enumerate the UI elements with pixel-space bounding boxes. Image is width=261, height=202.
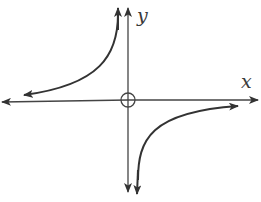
y-axis-label: y xyxy=(137,6,148,25)
curve-branch-quadrant-4 xyxy=(138,106,238,180)
x-axis-negative xyxy=(2,100,128,102)
curve-branch-quadrant-2 xyxy=(24,14,118,95)
curve-branch-quadrant-4-bottom xyxy=(137,170,138,194)
hyperbola-graph xyxy=(0,0,261,202)
x-axis-label: x xyxy=(241,72,252,91)
